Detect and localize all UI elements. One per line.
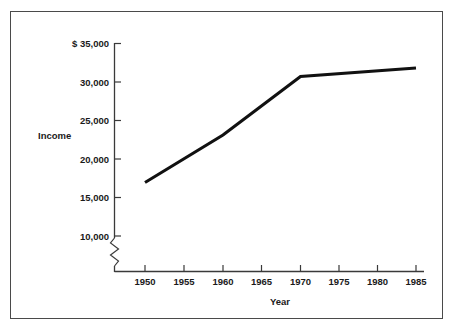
x-tick-label-1955: 1955 bbox=[173, 276, 195, 287]
x-tick-label-1950: 1950 bbox=[134, 276, 155, 287]
chart-screenshot: $ 35,000 30,000 25,000 20,000 15,000 10,… bbox=[0, 0, 455, 330]
y-tick-label-15000: 15,000 bbox=[80, 192, 109, 203]
y-axis: $ 35,000 30,000 25,000 20,000 15,000 10,… bbox=[38, 38, 121, 272]
x-tick-label-1980: 1980 bbox=[367, 276, 388, 287]
y-axis-title: Income bbox=[38, 130, 71, 141]
x-tick-label-1970: 1970 bbox=[290, 276, 311, 287]
y-tick-label-10000: 10,000 bbox=[80, 231, 109, 242]
y-tick-label-25000: 25,000 bbox=[80, 115, 109, 126]
x-axis: 1950 1955 1960 1965 1970 1975 1980 1985 … bbox=[115, 265, 428, 307]
series-income-line bbox=[145, 68, 416, 183]
y-tick-label-35000: $ 35,000 bbox=[72, 38, 109, 49]
x-tick-label-1985: 1985 bbox=[405, 276, 427, 287]
x-tick-label-1965: 1965 bbox=[251, 276, 273, 287]
y-tick-label-30000: 30,000 bbox=[80, 77, 109, 88]
line-chart: $ 35,000 30,000 25,000 20,000 15,000 10,… bbox=[0, 0, 455, 330]
y-tick-label-20000: 20,000 bbox=[80, 154, 109, 165]
x-tick-label-1975: 1975 bbox=[328, 276, 350, 287]
x-axis-title: Year bbox=[270, 296, 290, 307]
x-tick-label-1960: 1960 bbox=[212, 276, 233, 287]
y-axis-break-icon bbox=[111, 238, 119, 266]
series-income bbox=[145, 68, 416, 183]
